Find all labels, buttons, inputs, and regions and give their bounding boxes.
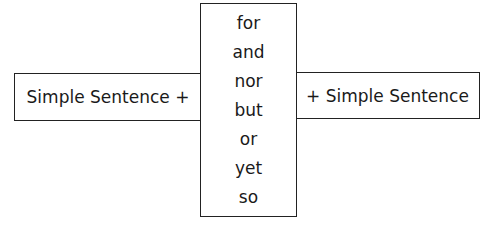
conjunction-so: so xyxy=(239,183,258,212)
conjunction-and: and xyxy=(233,38,265,67)
coordinating-conjunctions-box: for and nor but or yet so xyxy=(200,3,297,217)
right-simple-sentence-label: + Simple Sentence xyxy=(306,86,469,106)
conjunction-for: for xyxy=(237,9,260,38)
right-simple-sentence-box: + Simple Sentence xyxy=(295,72,480,119)
conjunction-but: but xyxy=(234,96,262,125)
left-simple-sentence-box: Simple Sentence + xyxy=(14,73,202,121)
left-simple-sentence-label: Simple Sentence + xyxy=(27,87,190,107)
conjunction-nor: nor xyxy=(234,67,262,96)
conjunction-yet: yet xyxy=(235,154,262,183)
conjunction-or: or xyxy=(240,125,257,154)
